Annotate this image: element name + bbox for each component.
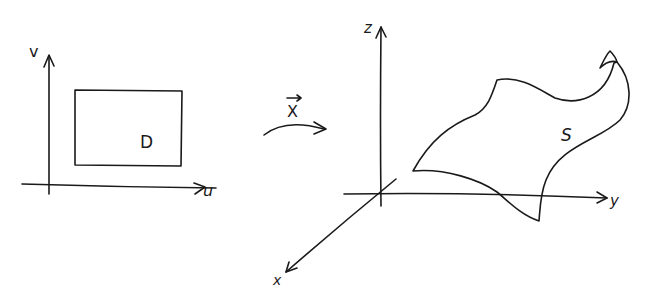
y-axis xyxy=(344,194,607,199)
v-axis-label: v xyxy=(29,42,38,61)
z-axis xyxy=(381,27,382,206)
y-axis-label: y xyxy=(609,192,620,210)
u-axis-label: u xyxy=(203,181,213,200)
uv-plane: v u D xyxy=(22,42,216,200)
u-axis xyxy=(22,184,216,188)
surface-curl xyxy=(600,51,617,68)
x-axis xyxy=(286,179,396,272)
x-axis-label: x xyxy=(272,272,282,288)
mapping-arrow: X xyxy=(264,95,326,135)
mapping-label: X xyxy=(287,102,298,121)
surface-label: S xyxy=(561,125,572,145)
parametric-surface-diagram: v u D X z y x S xyxy=(0,0,652,305)
domain-label: D xyxy=(140,132,153,152)
z-axis-label: z xyxy=(363,19,373,37)
domain-rectangle xyxy=(75,90,182,166)
vector-bar-icon xyxy=(287,95,301,101)
xyz-space: z y x S xyxy=(272,19,629,288)
